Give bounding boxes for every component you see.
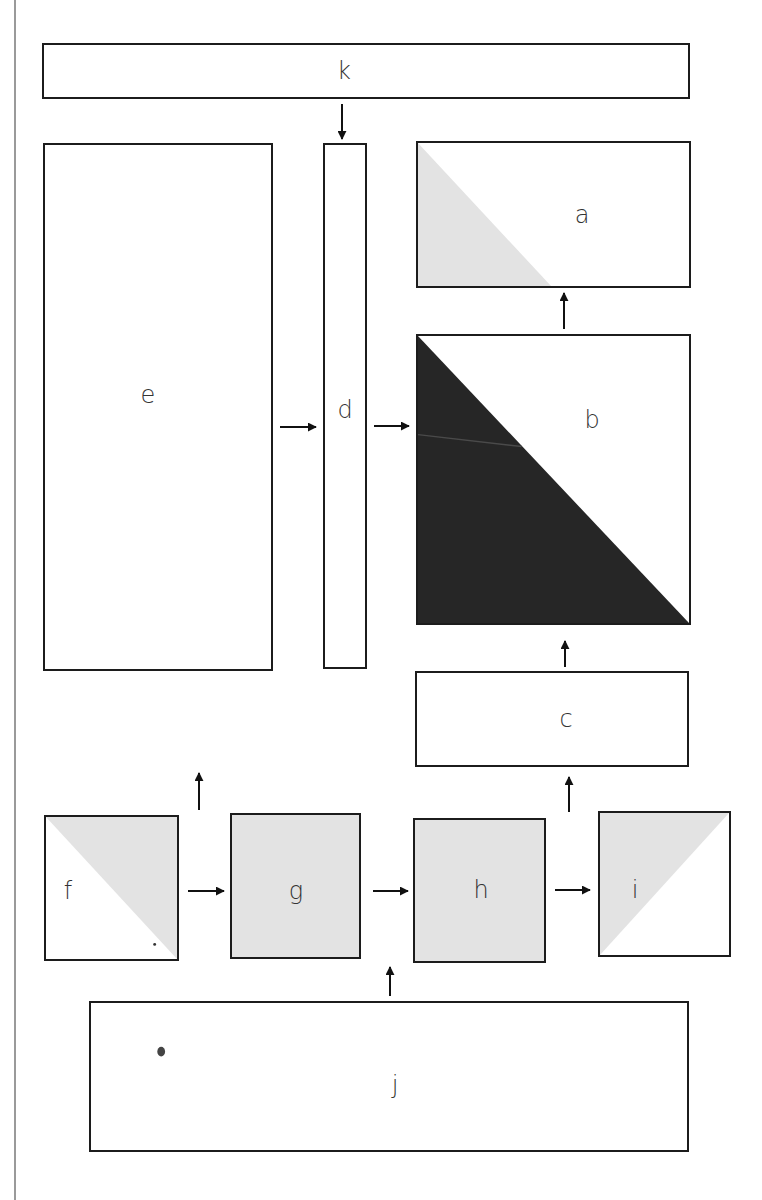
node-f-label: f	[64, 879, 72, 903]
node-e: e	[43, 143, 273, 671]
dark-triangle-fill	[418, 336, 689, 623]
light-triangle-fill	[418, 143, 689, 286]
node-j-label: j	[392, 1073, 399, 1097]
node-c-label: c	[559, 707, 572, 731]
node-b-label: b	[584, 408, 599, 432]
node-k: k	[42, 43, 690, 99]
node-d-label: d	[337, 398, 352, 422]
node-i: i	[598, 811, 731, 957]
light-triangle-fill	[600, 813, 729, 955]
node-h-label: h	[473, 878, 488, 902]
node-d: d	[323, 143, 367, 669]
node-j: j	[89, 1001, 689, 1152]
node-f: f	[44, 815, 179, 961]
node-a: a	[416, 141, 691, 288]
ink-blot	[91, 1003, 687, 1150]
node-i-label: i	[632, 878, 639, 902]
node-k-label: k	[337, 59, 351, 83]
node-g: g	[230, 813, 361, 959]
page-edge-line	[14, 0, 16, 1200]
node-e-label: e	[141, 383, 156, 407]
node-a-label: a	[575, 203, 590, 227]
node-c: c	[415, 671, 689, 767]
node-g-label: g	[289, 879, 303, 903]
node-h: h	[413, 818, 546, 963]
node-b: b	[416, 334, 691, 625]
